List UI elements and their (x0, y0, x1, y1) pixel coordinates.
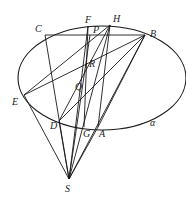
point-label-P: P (93, 25, 99, 35)
point-label-E: E (12, 97, 18, 107)
segment-HA (98, 25, 110, 127)
point-label-C: C (35, 24, 42, 34)
segment-BA (98, 35, 145, 127)
point-label-B: B (150, 29, 156, 39)
segment-PS (69, 35, 90, 179)
point-label-S: S (65, 184, 70, 194)
segment-DB (59, 35, 145, 121)
segments (24, 25, 145, 179)
segment-HS (69, 25, 110, 179)
point-label-Q: Q (75, 82, 82, 92)
point-label-G: G (83, 129, 90, 139)
point-label-H: H (113, 14, 120, 24)
point-label-F: F (85, 15, 91, 25)
geometry-diagram: CFPHBREQDGAS α (0, 0, 186, 204)
segment-EB (24, 35, 145, 95)
plane-label-alpha: α (150, 118, 155, 128)
segment-EH (24, 25, 110, 95)
point-label-A: A (99, 129, 105, 139)
point-label-R: R (89, 59, 95, 69)
point-label-D: D (50, 121, 57, 131)
